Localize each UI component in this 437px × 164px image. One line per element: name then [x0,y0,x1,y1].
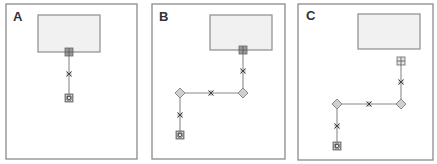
panel-c: C [298,4,433,160]
end-handle-target-square-icon[interactable] [333,142,341,150]
end-handle-target-square-icon[interactable] [176,131,184,139]
end-handle-target-square-icon[interactable] [65,94,73,102]
midpoint-handle-x-icon[interactable] [209,91,214,96]
panel-a-label: A [13,9,23,24]
start-handle-grid-square-icon[interactable] [239,46,247,54]
start-handle-grid-square-icon[interactable] [397,57,405,65]
panel-a: A [6,4,137,159]
midpoint-handle-x-icon[interactable] [335,124,340,129]
figure-canvas: A B [0,0,437,164]
panel-a-shape[interactable] [38,15,100,52]
midpoint-handle-x-icon[interactable] [67,72,72,77]
midpoint-handle-x-icon[interactable] [399,80,404,85]
panel-c-shape[interactable] [358,14,420,49]
panel-b: B [152,4,285,159]
panel-b-label: B [159,9,168,24]
midpoint-handle-x-icon[interactable] [178,113,183,118]
panel-c-label: C [306,8,316,23]
midpoint-handle-x-icon[interactable] [367,102,372,107]
midpoint-handle-x-icon[interactable] [241,69,246,74]
panel-b-shape[interactable] [210,15,272,50]
start-handle-grid-square-icon[interactable] [65,48,73,56]
